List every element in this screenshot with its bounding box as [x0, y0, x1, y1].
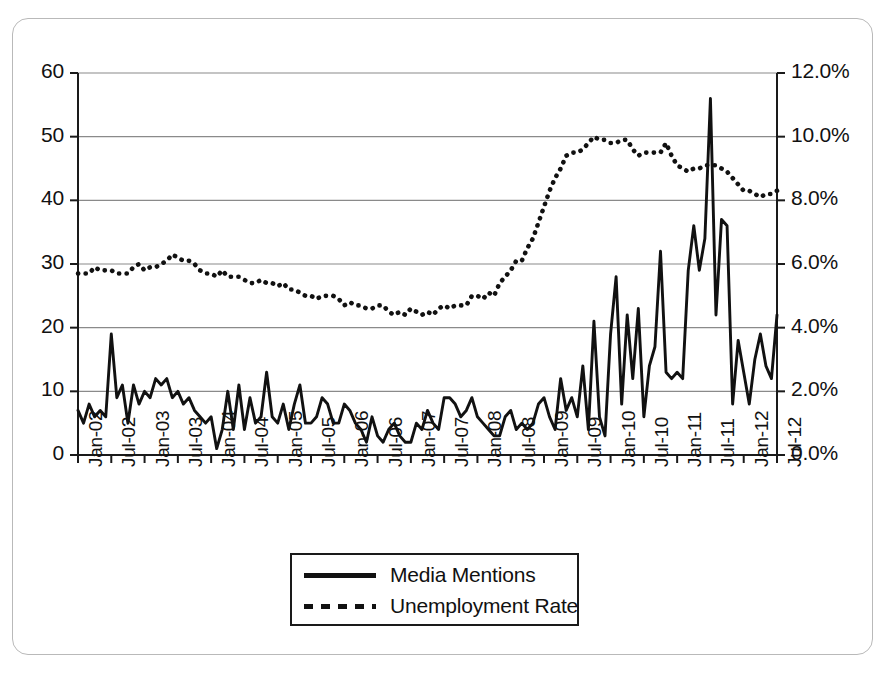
x-axis-tick-label: Jul-10 — [651, 417, 673, 467]
legend-label-media-mentions: Media Mentions — [390, 563, 535, 587]
x-axis-tick-label: Jan-08 — [484, 411, 506, 467]
legend-swatch-solid-line-icon — [304, 568, 376, 582]
legend-swatch-dotted-line-icon — [304, 599, 376, 613]
x-axis-tick-label: Jul-12 — [784, 417, 806, 467]
x-axis-tick-label: Jul-06 — [385, 417, 407, 467]
x-axis-tick-label: Jan-03 — [152, 411, 174, 467]
y-axis-right-tick-label: 10.0% — [791, 123, 850, 147]
y-axis-right-tick-label: 4.0% — [791, 314, 838, 338]
x-axis-tick-label: Jan-09 — [551, 411, 573, 467]
x-axis-tick-label: Jan-10 — [618, 411, 640, 467]
y-axis-right-tick-label: 6.0% — [791, 250, 838, 274]
y-axis-left-tick-label: 10 — [41, 377, 64, 401]
x-axis-tick-label: Jul-03 — [185, 417, 207, 467]
x-axis-tick-label: Jul-07 — [451, 417, 473, 467]
legend-label-unemployment-rate: Unemployment Rate — [390, 594, 578, 618]
x-axis-tick-label: Jul-09 — [584, 417, 606, 467]
chart-legend: Media Mentions Unemployment Rate — [290, 553, 579, 626]
y-axis-left-tick-label: 60 — [41, 59, 64, 83]
x-axis-tick-label: Jan-07 — [418, 411, 440, 467]
x-axis-tick-label: Jan-05 — [285, 411, 307, 467]
y-axis-left-tick-label: 20 — [41, 314, 64, 338]
legend-item-media-mentions[interactable]: Media Mentions — [304, 560, 535, 590]
x-axis-tick-label: Jul-11 — [717, 418, 739, 467]
x-axis-tick-label: Jul-04 — [251, 417, 273, 467]
x-axis-tick-label: Jan-04 — [218, 411, 240, 467]
series-line-unemployment-rate — [78, 137, 777, 315]
x-axis-tick-label: Jan-02 — [85, 411, 107, 467]
x-axis-tick-label: Jan-06 — [351, 411, 373, 467]
x-axis-tick-label: Jul-05 — [318, 417, 340, 467]
x-axis-tick-label: Jan-11 — [684, 412, 706, 467]
y-axis-left-tick-label: 40 — [41, 186, 64, 210]
y-axis-left-tick-label: 0 — [53, 441, 64, 465]
y-axis-right-tick-label: 8.0% — [791, 186, 838, 210]
y-axis-right-tick-label: 2.0% — [791, 377, 838, 401]
y-axis-left-tick-label: 30 — [41, 250, 64, 274]
series-line-media-mentions — [78, 98, 777, 448]
legend-item-unemployment-rate[interactable]: Unemployment Rate — [304, 591, 578, 621]
x-axis-tick-label: Jul-08 — [518, 417, 540, 467]
y-axis-left-tick-label: 50 — [41, 123, 64, 147]
x-axis-tick-label: Jul-02 — [118, 417, 140, 467]
x-axis-tick-label: Jan-12 — [751, 411, 773, 467]
y-axis-right-tick-label: 12.0% — [791, 59, 850, 83]
